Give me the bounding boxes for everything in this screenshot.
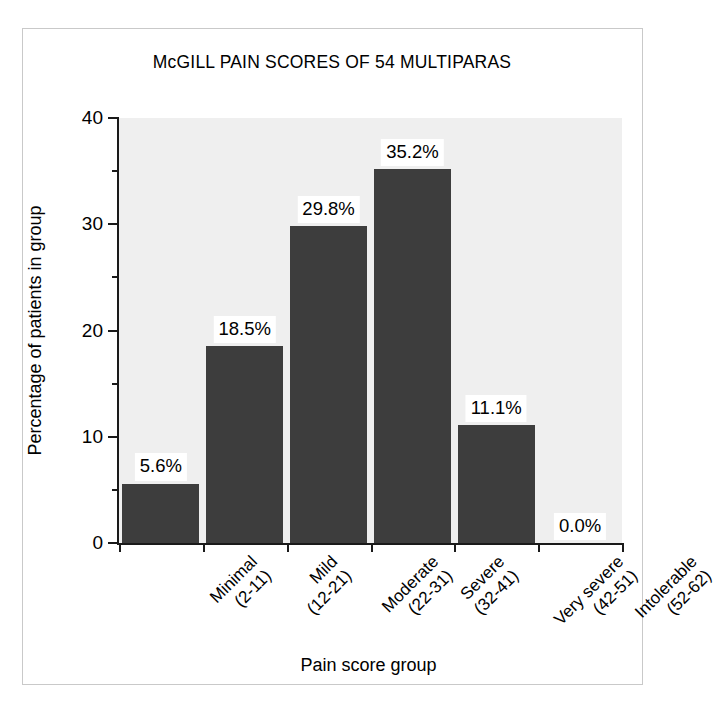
bar-value-label: 11.1% xyxy=(466,395,527,423)
x-tick-labels: Minimal(2-11)Mild(12-21)Moderate(22-31)S… xyxy=(117,552,620,652)
y-axis-minor-tick xyxy=(112,276,119,278)
y-axis-tick-label: 20 xyxy=(82,320,103,342)
y-axis-major-tick xyxy=(108,330,119,332)
bar xyxy=(458,425,535,543)
bar-value-label: 35.2% xyxy=(381,139,443,167)
bar-value-label: 5.6% xyxy=(135,453,187,481)
y-axis-major-tick xyxy=(108,436,119,438)
x-axis-category-label: Intolerable(52-62) xyxy=(631,552,715,636)
bar xyxy=(122,484,199,544)
x-axis-category-label: Moderate(22-31) xyxy=(378,552,457,631)
y-axis-major-tick xyxy=(108,117,119,119)
x-axis-tick xyxy=(622,543,624,552)
x-axis-tick xyxy=(371,543,373,552)
y-axis-minor-tick xyxy=(112,383,119,385)
x-axis-tick xyxy=(287,543,289,552)
y-axis-tick-label: 0 xyxy=(92,532,103,554)
x-axis-tick-origin xyxy=(119,543,121,552)
bar xyxy=(374,169,451,543)
y-axis-major-tick xyxy=(108,223,119,225)
x-axis-category-label: Mild(12-21) xyxy=(289,552,356,619)
y-axis-title-text: Percentage of patients in group xyxy=(25,205,46,455)
y-axis-tick-label: 10 xyxy=(82,426,103,448)
x-axis-tick xyxy=(203,543,205,552)
bar xyxy=(290,226,367,543)
chart-title: McGILL PAIN SCORES OF 54 MULTIPARAS xyxy=(0,52,664,73)
bar-value-label: 0.0% xyxy=(554,513,606,541)
y-axis-tick-label: 30 xyxy=(82,213,103,235)
y-axis-title: Percentage of patients in group xyxy=(22,118,48,543)
plot-area: 0102030405.6%18.5%29.8%35.2%11.1%0.0% xyxy=(117,118,622,545)
x-axis-category-label: Minimal(2-11) xyxy=(206,552,276,622)
y-axis-minor-tick xyxy=(112,489,119,491)
y-axis-major-tick xyxy=(108,542,119,544)
bar xyxy=(206,346,283,543)
x-axis-title: Pain score group xyxy=(117,655,620,676)
x-axis-category-label: Severe(32-41) xyxy=(456,552,523,619)
bar-value-label: 29.8% xyxy=(297,196,359,224)
bar-value-label: 18.5% xyxy=(214,316,276,344)
y-axis-tick-label: 40 xyxy=(82,107,103,129)
y-axis-minor-tick xyxy=(112,170,119,172)
x-axis-tick xyxy=(538,543,540,552)
x-axis-tick xyxy=(454,543,456,552)
